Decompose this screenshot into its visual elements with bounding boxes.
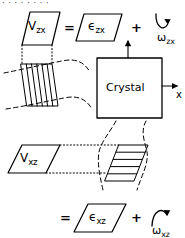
crystal-box-label: Crystal	[106, 82, 145, 93]
axis-x-label: x	[176, 90, 182, 100]
omega-xz-label: ωxz	[152, 225, 170, 236]
shear-decomposition-figure: · · · · · · · ·	[0, 0, 185, 238]
zx-shear-strip-block	[21, 64, 58, 106]
epsilon-xz-label: ϵxz	[89, 211, 106, 223]
omega-zx-rotation-arrow	[156, 14, 171, 28]
top-plus-sign: +	[131, 21, 142, 34]
v-zx-label: Vzx	[28, 20, 45, 32]
v-xz-label: Vxz	[20, 152, 37, 164]
omega-zx-label: ωzx	[157, 32, 175, 43]
axis-z-arrow	[125, 40, 131, 58]
bottom-equals-sign: =	[60, 211, 71, 224]
top-equals-sign: =	[64, 21, 75, 34]
epsilon-zx-label: ϵzx	[88, 20, 105, 32]
xz-shear-strip-block	[105, 145, 148, 181]
bottom-plus-sign: +	[131, 211, 142, 224]
